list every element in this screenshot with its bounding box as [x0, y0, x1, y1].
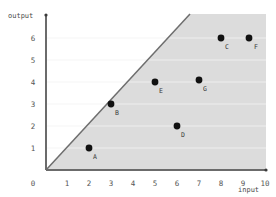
y-axis-title: output [8, 12, 33, 20]
data-point-label-F: F [254, 43, 258, 51]
data-point-label-G: G [203, 85, 207, 93]
y-tick-label-2: 2 [31, 122, 36, 131]
y-tick-label-0: 0 [31, 179, 36, 188]
y-tick-label-5: 5 [31, 56, 36, 65]
y-tick-label-3: 3 [31, 100, 36, 109]
data-point-A[interactable] [86, 145, 93, 152]
data-point-label-E: E [159, 87, 163, 95]
data-point-E[interactable] [152, 79, 159, 86]
y-axis-cap [44, 13, 47, 16]
x-tick-label-9: 9 [241, 179, 246, 188]
x-tick-label-7: 7 [197, 179, 202, 188]
data-point-F[interactable] [246, 35, 253, 42]
y-tick-label-1: 1 [31, 144, 36, 153]
data-point-G[interactable] [196, 77, 203, 84]
y-tick-label-4: 4 [31, 78, 36, 87]
data-point-label-C: C [225, 43, 229, 51]
x-tick-label-1: 1 [65, 179, 70, 188]
x-tick-label-6: 6 [175, 179, 180, 188]
data-point-C[interactable] [218, 35, 225, 42]
x-tick-label-8: 8 [219, 179, 224, 188]
data-point-label-B: B [115, 109, 119, 117]
x-tick-label-5: 5 [153, 179, 158, 188]
scatter-chart: output input 6 5 4 3 2 1 0 1 2 3 4 5 6 7… [0, 0, 276, 197]
y-tick-label-6: 6 [31, 34, 36, 43]
feasible-region-shape [46, 14, 266, 170]
data-point-B[interactable] [108, 101, 115, 108]
data-point-label-A: A [93, 153, 97, 161]
x-tick-label-4: 4 [131, 179, 136, 188]
x-tick-label-3: 3 [109, 179, 114, 188]
chart-canvas: output input 6 5 4 3 2 1 0 1 2 3 4 5 6 7… [0, 0, 276, 197]
x-tick-label-2: 2 [87, 179, 92, 188]
data-point-D[interactable] [174, 123, 181, 130]
x-tick-label-10: 10 [260, 179, 270, 188]
data-point-label-D: D [181, 131, 185, 139]
x-axis-cap [264, 168, 267, 171]
